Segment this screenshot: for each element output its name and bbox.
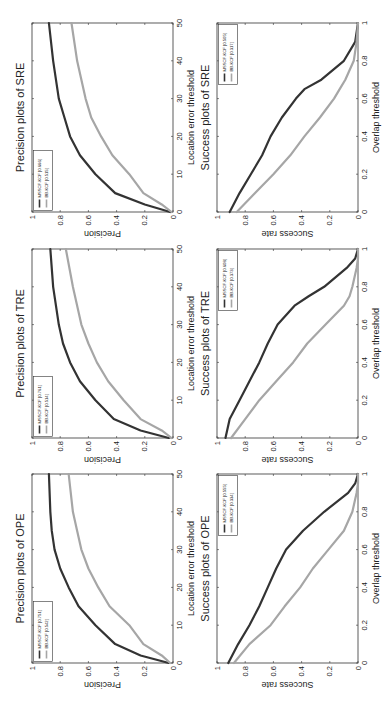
series-line-msscf-kcf [49,474,169,663]
y-tick-label: 0 [354,215,363,219]
x-tick-label: 0.8 [360,507,369,517]
x-tick-label: 0.2 [360,395,369,405]
legend-label: MSSCF-KCF [0.608] [222,259,227,297]
x-tick-label: 0 [175,436,184,440]
y-axis-label: Precision [84,229,121,239]
chart-success-tre: Success plots of TRE00.20.40.60.8100.20.… [199,247,381,465]
x-tick-label: 0 [360,210,369,214]
y-tick-label: 1 [28,666,37,670]
y-tick-label: 0.2 [325,666,334,676]
legend-label: MSSCF-KCF [0.751] [37,610,42,648]
y-tick-label: 0.2 [140,666,149,676]
legend-label: MSSCF-KCF [0.555] [222,484,227,522]
x-tick-label: 30 [175,320,184,328]
legend-label: BB-KCF [0.373] [229,268,234,297]
x-tick-label: 0 [175,661,184,665]
chart-precision-ope: Precision plots of OPE0102030405000.20.4… [14,470,196,690]
figure: Precision plots of SRE0102030405000.20.4… [0,0,392,702]
y-tick-label: 0.6 [269,666,278,676]
x-tick-label: 20 [175,358,184,366]
y-tick-label: 0 [169,666,178,670]
x-tick-label: 50 [175,245,184,253]
x-tick-label: 0.8 [360,282,369,292]
x-tick-label: 10 [175,621,184,629]
x-tick-label: 0.4 [360,582,369,592]
x-tick-label: 1 [360,472,369,476]
y-tick-label: 0 [169,441,178,445]
y-tick-label: 0.2 [140,441,149,451]
y-tick-label: 1 [213,441,222,445]
series-line-msscf-kcf [50,249,168,438]
legend-label: MSSCF-KCF [0.761] [37,385,42,423]
y-tick-label: 1 [28,215,37,219]
x-tick-label: 0.4 [360,357,369,367]
y-tick-label: 0 [169,215,178,219]
y-tick-label: 0.4 [112,441,121,451]
x-tick-label: 20 [175,132,184,140]
plot-area [32,474,173,663]
y-tick-label: 0.8 [56,666,65,676]
x-tick-label: 0 [360,436,369,440]
x-tick-label: 0.8 [360,56,369,66]
chart-title: Success plots of SRE [199,65,211,171]
x-axis-label: Location error threshold [186,296,196,391]
x-tick-label: 0.6 [360,93,369,103]
x-tick-label: 0.2 [360,620,369,630]
x-tick-label: 0.6 [360,544,369,554]
x-tick-label: 1 [360,247,369,251]
y-tick-label: 0.8 [241,215,250,225]
legend-label: BB-KCF [0.317] [229,42,234,71]
x-axis-label: Location error threshold [186,521,196,616]
x-tick-label: 0.6 [360,319,369,329]
y-tick-label: 0.4 [297,441,306,451]
x-axis-label: Location error threshold [186,70,196,165]
series-line-msscf-kcf [228,474,358,663]
y-tick-label: 0.6 [84,215,93,225]
x-tick-label: 20 [175,583,184,591]
legend: MSSCF-KCF [0.555]BB-KCF [0.334] [219,476,238,536]
x-axis-label: Overlap threshold [371,308,381,379]
legend-label: BB-KCF [0.334] [229,493,234,522]
y-tick-label: 0.2 [325,215,334,225]
legend-label: BB-KCF [0.514] [44,394,49,423]
legend: MSSCF-KCF [0.666]BB-KCF [0.515] [34,151,53,211]
x-tick-label: 30 [175,94,184,102]
y-tick-label: 0.2 [325,441,334,451]
x-tick-label: 40 [175,283,184,291]
series-line-msscf-kcf [49,23,170,212]
legend: MSSCF-KCF [0.608]BB-KCF [0.373] [219,251,238,311]
series-line-bb-kcf [234,474,358,663]
x-tick-label: 0 [360,661,369,665]
y-axis-label: Precision [84,680,121,690]
x-axis-label: Overlap threshold [371,82,381,153]
legend: MSSCF-KCF [0.751]BB-KCF [0.542] [34,602,53,662]
chart-title: Success plots of TRE [199,291,211,396]
y-tick-label: 0.6 [269,441,278,451]
x-tick-label: 30 [175,545,184,553]
y-tick-label: 1 [213,215,222,219]
y-tick-label: 1 [213,666,222,670]
x-tick-label: 50 [175,470,184,478]
y-tick-label: 0.8 [56,215,65,225]
series-line-bb-kcf [66,249,172,438]
x-tick-label: 50 [175,19,184,27]
y-tick-label: 0.4 [112,215,121,225]
chart-success-ope: Success plots of OPE00.20.40.60.8100.20.… [199,472,381,690]
chart-precision-sre: Precision plots of SRE0102030405000.20.4… [14,19,196,239]
y-tick-label: 0.6 [84,666,93,676]
chart-precision-tre: Precision plots of TRE0102030405000.20.4… [14,245,196,465]
y-tick-label: 0 [354,441,363,445]
x-tick-label: 0 [175,210,184,214]
y-tick-label: 0.8 [241,441,250,451]
series-line-msscf-kcf [225,249,358,438]
chart-title: Success plots of OPE [199,515,211,621]
y-axis-label: Success rate [261,680,313,690]
chart-success-sre: Success plots of SRE00.20.40.60.8100.20.… [199,21,381,239]
y-tick-label: 0.8 [241,666,250,676]
chart-title: Precision plots of OPE [14,513,26,623]
y-tick-label: 0.4 [112,666,121,676]
y-axis-label: Success rate [261,455,313,465]
legend: MSSCF-KCF [0.761]BB-KCF [0.514] [34,377,53,437]
legend-label: MSSCF-KCF [0.505] [222,33,227,71]
legend-label: MSSCF-KCF [0.666] [37,159,42,197]
